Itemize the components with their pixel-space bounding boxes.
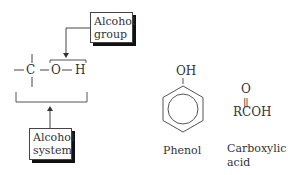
group-arrow-head	[63, 53, 69, 58]
acid-formula: RCOH	[233, 106, 272, 119]
phenol-oh: OH	[176, 65, 196, 78]
alcohol-system-line2: system	[33, 144, 68, 157]
group-arrow	[66, 28, 90, 54]
alcohol-group-callout: Alcohol group	[90, 12, 133, 43]
phenol-label: Phenol	[163, 144, 201, 158]
acid-label-line2: acid	[227, 156, 250, 170]
atom-carbon: C	[26, 64, 35, 77]
atom-hydrogen: H	[75, 64, 85, 77]
benzene-ring	[163, 78, 203, 132]
alcohol-group-line2: group	[94, 28, 129, 41]
alcohol-group-line1: Alcohol	[94, 15, 129, 28]
alcohol-system-callout: Alcohol system	[29, 128, 72, 160]
system-bracket	[16, 92, 87, 102]
atom-oxygen: O	[51, 64, 61, 77]
acid-label-line1: Carboxylic	[227, 142, 287, 156]
alcohol-system-line1: Alcohol	[33, 131, 68, 144]
system-arrow-head	[47, 106, 53, 111]
